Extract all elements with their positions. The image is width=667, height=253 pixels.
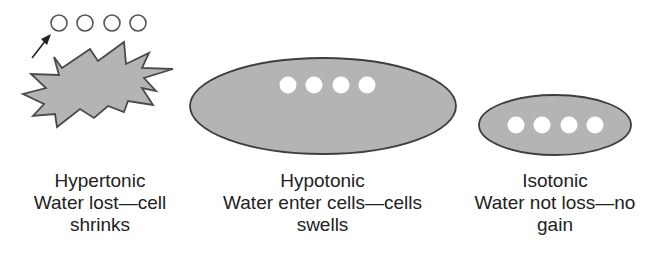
- caption-title: Hypertonic: [10, 170, 190, 192]
- water-molecule-icon: [561, 117, 578, 134]
- water-molecule-icon: [77, 15, 93, 31]
- caption-isotonic: Isotonic Water not loss—no gain: [460, 170, 650, 236]
- normal-cell: [479, 95, 631, 155]
- swollen-cell: [190, 58, 456, 154]
- water-molecule-icon: [51, 15, 67, 31]
- caption-title: Hypotonic: [200, 170, 445, 192]
- water-molecule-icon: [104, 15, 120, 31]
- caption-line: Water enter cells—cells: [200, 192, 445, 214]
- shrunken-cell-starburst: [23, 42, 173, 127]
- water-molecule-icon: [534, 117, 551, 134]
- water-molecule-icon: [333, 77, 350, 94]
- arrow-icon: [32, 34, 51, 58]
- water-molecule-icon: [508, 117, 525, 134]
- caption-line: swells: [200, 214, 445, 236]
- water-molecule-icon: [359, 77, 376, 94]
- caption-line: Water not loss—no: [460, 192, 650, 214]
- water-molecule-icon: [280, 77, 297, 94]
- water-molecule-icon: [130, 15, 146, 31]
- caption-line: Water lost—cell: [10, 192, 190, 214]
- caption-line: shrinks: [10, 214, 190, 236]
- water-molecule-icon: [306, 77, 323, 94]
- caption-line: gain: [460, 214, 650, 236]
- caption-hypertonic: Hypertonic Water lost—cell shrinks: [10, 170, 190, 236]
- escaped-water-molecules: [51, 15, 146, 31]
- caption-hypotonic: Hypotonic Water enter cells—cells swells: [200, 170, 445, 236]
- caption-title: Isotonic: [460, 170, 650, 192]
- water-molecule-icon: [587, 117, 604, 134]
